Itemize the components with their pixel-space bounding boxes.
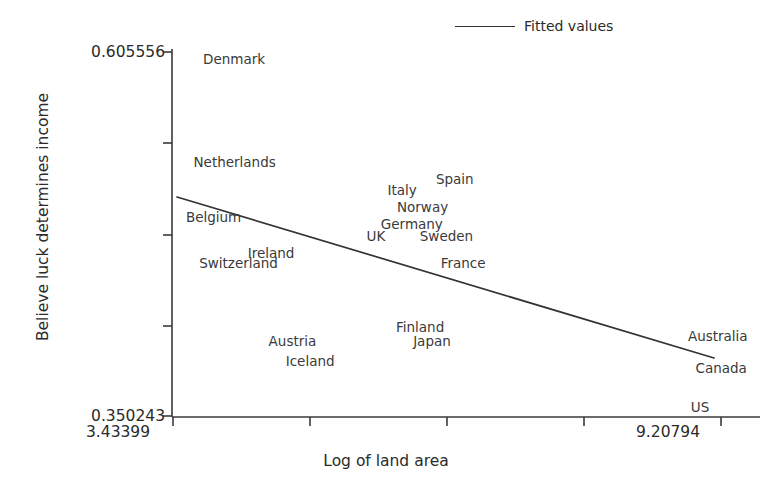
legend-entry-label: Fitted values xyxy=(524,18,613,34)
x-axis-tick-label-max: 9.20794 xyxy=(636,425,700,441)
data-point-label: Switzerland xyxy=(199,257,278,271)
data-point-label: Canada xyxy=(696,362,747,376)
data-point-label: Belgium xyxy=(186,211,241,225)
data-point-label: Austria xyxy=(269,335,317,349)
data-point-label: France xyxy=(441,257,486,271)
legend-line-swatch xyxy=(455,26,515,27)
y-axis-tick-label-max: 0.605556 xyxy=(91,45,165,61)
data-point-label: Japan xyxy=(413,335,451,349)
data-point-label: Sweden xyxy=(420,230,473,244)
data-point-label: US xyxy=(691,401,709,415)
data-point-label: Denmark xyxy=(203,53,265,67)
data-point-label: UK xyxy=(367,230,386,244)
y-axis-ticks xyxy=(163,52,172,416)
data-point-label: Netherlands xyxy=(193,156,275,170)
legend: Fitted values xyxy=(455,18,613,34)
x-axis-tick-label-min: 3.43399 xyxy=(86,425,150,441)
data-point-label: Italy xyxy=(387,184,416,198)
data-point-label: Norway xyxy=(397,201,448,215)
data-point-label: Spain xyxy=(436,173,474,187)
scatter-plot-figure: 0.605556 0.350243 3.43399 9.20794 Log of… xyxy=(0,0,772,497)
data-point-label: Australia xyxy=(688,330,748,344)
y-axis-title: Believe luck determines income xyxy=(34,52,52,382)
data-point-label: Iceland xyxy=(286,355,335,369)
x-axis-title: Log of land area xyxy=(0,452,772,470)
